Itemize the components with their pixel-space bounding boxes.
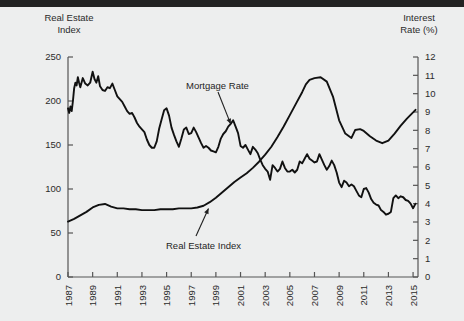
arrow-real-estate-index bbox=[196, 209, 209, 236]
ytick-label-right: 12 bbox=[425, 51, 436, 62]
ytick-label-right: 7 bbox=[425, 143, 430, 154]
ytick-label-right: 11 bbox=[425, 70, 435, 81]
arrow-mortgage-rate bbox=[218, 92, 231, 124]
ytick-label-right: 2 bbox=[425, 235, 430, 246]
xtick-label: 1991 bbox=[112, 285, 123, 306]
ytick-label-right: 0 bbox=[425, 271, 430, 282]
xtick-label: 1993 bbox=[137, 285, 148, 306]
series-line-mortgage-rate bbox=[68, 72, 416, 215]
ytick-label-right: 3 bbox=[425, 216, 430, 227]
xtick-label: 2013 bbox=[383, 285, 394, 306]
ytick-label-right: 5 bbox=[425, 180, 430, 191]
ytick-label-left: 50 bbox=[50, 227, 61, 238]
xtick-label: 2015 bbox=[408, 285, 419, 306]
ytick-label-right: 1 bbox=[425, 253, 430, 264]
ytick-label-left: 150 bbox=[45, 139, 61, 150]
ytick-label-left: 250 bbox=[45, 51, 61, 62]
chart-canvas: 0501001502002500123456789101112198719891… bbox=[0, 0, 464, 321]
xtick-label: 2003 bbox=[260, 285, 271, 306]
series-group bbox=[68, 72, 416, 222]
xtick-label: 1997 bbox=[186, 285, 197, 306]
xtick-label: 1989 bbox=[87, 285, 98, 306]
annotation-arrows bbox=[196, 92, 231, 236]
ytick-label-right: 10 bbox=[425, 88, 436, 99]
ytick-label-left: 200 bbox=[45, 95, 61, 106]
xtick-label: 1987 bbox=[63, 285, 74, 306]
xtick-label: 2005 bbox=[284, 285, 295, 306]
xtick-label: 2007 bbox=[309, 285, 320, 306]
ytick-label-right: 8 bbox=[425, 125, 430, 136]
ytick-label-right: 4 bbox=[425, 198, 430, 209]
xtick-label: 2011 bbox=[358, 285, 369, 305]
xtick-label: 1999 bbox=[210, 285, 221, 306]
ytick-label-left: 0 bbox=[56, 271, 61, 282]
ytick-label-right: 6 bbox=[425, 161, 430, 172]
ytick-label-right: 9 bbox=[425, 106, 430, 117]
xtick-label: 2009 bbox=[334, 285, 345, 306]
ytick-label-left: 100 bbox=[45, 183, 61, 194]
xtick-label: 1995 bbox=[161, 285, 172, 306]
xtick-label: 2001 bbox=[235, 285, 246, 306]
